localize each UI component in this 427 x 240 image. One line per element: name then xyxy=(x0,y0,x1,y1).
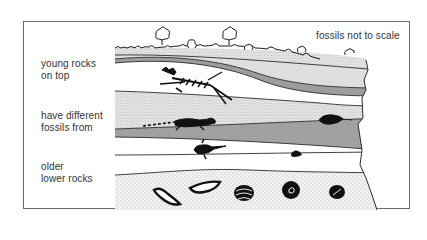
label-young-rocks-line2: on top xyxy=(41,70,69,82)
label-different-fossils-line1: have different xyxy=(41,110,103,122)
clam-shell-fossil xyxy=(234,185,254,201)
sea-urchin-fossil xyxy=(329,185,345,199)
tree-1 xyxy=(156,27,170,45)
label-young-rocks-line1: young rocks xyxy=(41,58,96,70)
ammonite-fossil xyxy=(282,181,300,199)
tree-2 xyxy=(187,40,196,48)
label-different-fossils-line2: fossils from xyxy=(41,122,93,134)
scale-note: fossils not to scale xyxy=(316,30,400,42)
label-older-rocks-line2: lower rocks xyxy=(41,173,93,185)
label-older-rocks-line1: older xyxy=(41,161,64,173)
tree-3 xyxy=(223,27,237,45)
